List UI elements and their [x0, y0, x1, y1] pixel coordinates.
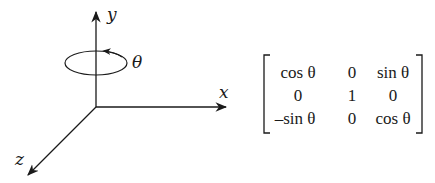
left-bracket	[264, 55, 270, 133]
m33: cos θ	[375, 109, 410, 128]
m22: 1	[348, 86, 357, 105]
z-axis-label: z	[14, 149, 25, 169]
y-axis-label: y	[106, 4, 117, 24]
m23: 0	[389, 86, 398, 105]
m21: 0	[294, 86, 303, 105]
m31: –sin θ	[274, 109, 316, 128]
rotation-arrow-icon	[104, 51, 122, 57]
m11: cos θ	[280, 63, 315, 82]
z-axis	[28, 107, 96, 175]
rotation-matrix: cos θ 0 sin θ 0 1 0 –sin θ 0 cos θ	[274, 63, 411, 128]
right-bracket	[416, 55, 422, 133]
m13: sin θ	[377, 63, 409, 82]
theta-label: θ	[132, 52, 142, 72]
m12: 0	[348, 63, 357, 82]
rotation-diagram: y x z θ cos θ 0 sin θ 0 1 0 –sin θ 0 cos…	[0, 0, 435, 183]
x-axis-label: x	[219, 82, 229, 102]
m32: 0	[348, 109, 357, 128]
